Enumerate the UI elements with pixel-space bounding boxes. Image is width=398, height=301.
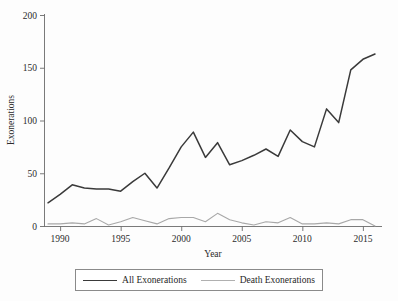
y-tick-label: 200 [23, 11, 38, 21]
x-axis-title: Year [204, 249, 222, 259]
x-axis-tick-labels: 199019952000200520102015 [51, 234, 373, 244]
legend-line-swatch-death-icon [201, 280, 235, 281]
series-line-all-exonerations [48, 54, 375, 203]
y-axis-title: Exonerations [6, 95, 16, 145]
x-tick-label: 1990 [51, 234, 70, 244]
x-tick-label: 2005 [232, 234, 251, 244]
legend-label-all-exonerations: All Exonerations [122, 275, 187, 285]
series-line-death-exonerations [48, 213, 375, 226]
x-tick-label: 2000 [172, 234, 191, 244]
chart-plot-area: 050100150200 199019952000200520102015 Ex… [0, 0, 398, 301]
x-axis-ticks [61, 227, 364, 232]
legend-label-death-exonerations: Death Exonerations [240, 275, 315, 285]
x-tick-label: 2015 [353, 234, 372, 244]
legend-entry-all-exonerations: All Exonerations [83, 275, 187, 285]
y-tick-label: 0 [32, 222, 37, 232]
legend-entry-death-exonerations: Death Exonerations [201, 275, 315, 285]
x-tick-label: 2010 [293, 234, 312, 244]
y-axis-ticks [40, 16, 45, 227]
y-axis-tick-labels: 050100150200 [23, 11, 38, 232]
y-tick-label: 50 [28, 169, 38, 179]
legend-line-swatch-all-icon [83, 280, 117, 281]
x-tick-label: 1995 [111, 234, 130, 244]
chart-legend: All Exonerations Death Exonerations [75, 269, 323, 291]
y-tick-label: 100 [23, 116, 38, 126]
chart-figure: 050100150200 199019952000200520102015 Ex… [0, 0, 398, 301]
y-tick-label: 150 [23, 63, 38, 73]
